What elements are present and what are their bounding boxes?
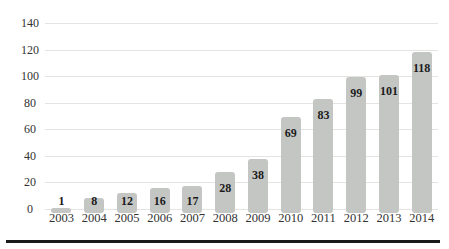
bar-value-label: 99: [340, 86, 372, 100]
bar-value-label: 118: [406, 61, 438, 75]
bar-value-label: 8: [78, 194, 110, 208]
gridline-y120: [45, 50, 438, 51]
bar-value-label: 1: [45, 194, 77, 208]
bar-value-label: 101: [373, 84, 405, 98]
bar-2014: [412, 52, 432, 213]
bar-value-label: 83: [307, 108, 339, 122]
y-axis-tick-label: 140: [10, 15, 50, 31]
bottom-rule-divider: [6, 240, 440, 243]
y-axis-tick-label: 60: [10, 121, 50, 137]
bar-value-label: 69: [275, 126, 307, 140]
bar-value-label: 28: [209, 181, 241, 195]
bar-value-label: 17: [176, 194, 208, 208]
y-axis-tick-label: 120: [10, 42, 50, 58]
bar-value-label: 16: [144, 194, 176, 208]
bar-value-label: 38: [242, 168, 274, 182]
bar-chart-figure: 0204060801001201401200382004122005162006…: [0, 0, 449, 249]
x-axis-tick-label: 2014: [402, 211, 442, 225]
y-axis-tick-label: 40: [10, 148, 50, 164]
y-axis-tick-label: 100: [10, 68, 50, 84]
bar-value-label: 12: [111, 194, 143, 208]
y-axis-tick-label: 80: [10, 95, 50, 111]
gridline-y140: [45, 23, 438, 24]
y-axis-tick-label: 20: [10, 174, 50, 190]
